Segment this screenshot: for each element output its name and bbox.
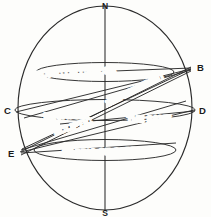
point-e-label: E — [8, 148, 14, 159]
point-c-label: C — [4, 105, 11, 116]
tropic-of-capricorn-label: TROPIC OF CAPRICORN — [63, 145, 166, 158]
north-pole-label: N — [102, 1, 108, 11]
point-b-label: B — [197, 62, 204, 73]
south-pole-label: S — [102, 208, 108, 217]
the-same-label: THE SAME — [127, 114, 172, 124]
the-different-chord-line — [22, 69, 191, 149]
e-upper-fan-line — [21, 101, 186, 150]
the-different-label: THE DIFFERENT — [105, 71, 166, 108]
celestial-sphere-diagram: N S B C D E TROPIC OF CANCER EQUATOR ECL… — [0, 0, 211, 217]
sphere-figure: N S B C D E TROPIC OF CANCER EQUATOR ECL… — [0, 0, 211, 217]
point-d-label: D — [199, 105, 206, 116]
